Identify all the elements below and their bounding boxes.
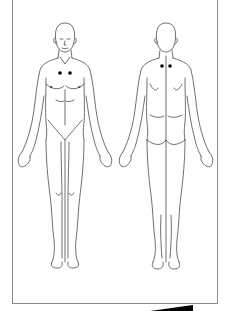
pain-markers (58, 64, 172, 75)
body-chart-svg (0, 0, 229, 311)
front-figure (18, 23, 111, 268)
page-corner-wedge (150, 305, 193, 311)
marker-dot (58, 71, 62, 75)
back-figure (119, 23, 212, 269)
marker-dot (68, 71, 72, 75)
marker-dot (168, 64, 172, 68)
marker-dot (160, 64, 164, 68)
